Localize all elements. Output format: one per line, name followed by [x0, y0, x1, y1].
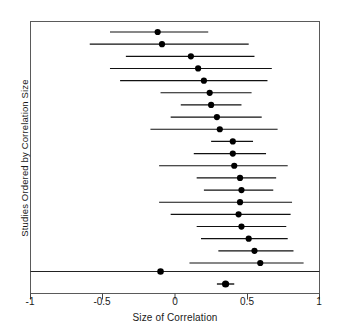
- x-tick-label-1: 1: [299, 296, 338, 307]
- point-estimate-marker: [237, 175, 243, 181]
- point-estimate-marker: [201, 78, 207, 84]
- x-tick-label-zero: 0: [155, 296, 195, 307]
- point-estimate-marker: [207, 90, 213, 96]
- point-estimate-marker: [214, 114, 220, 120]
- point-estimate-marker: [251, 248, 257, 254]
- point-estimate-marker: [231, 163, 237, 169]
- point-estimate-marker: [238, 223, 244, 229]
- point-estimate-marker: [246, 236, 252, 242]
- x-tick-label-neg0p5: -0.5: [82, 296, 122, 307]
- summary-strip-frame: [31, 272, 320, 294]
- point-estimate-marker: [257, 260, 263, 266]
- divider-point-layer: [157, 268, 164, 275]
- forest-plot-canvas: [0, 0, 338, 334]
- point-estimate-marker: [235, 211, 241, 217]
- point-estimate-marker: [217, 126, 223, 132]
- point-estimate-marker: [159, 41, 165, 47]
- point-estimate-marker: [155, 29, 161, 35]
- x-tick-label-neg1: -1: [10, 296, 50, 307]
- point-estimate-marker: [230, 150, 236, 156]
- y-axis-label: Studies Ordered by Correlation Size: [18, 22, 32, 294]
- plot-frame: [31, 22, 320, 272]
- point-estimate-marker: [195, 65, 201, 71]
- forest-plot-figure: Studies Ordered by Correlation Size Size…: [0, 0, 338, 334]
- point-estimate-marker: [238, 187, 244, 193]
- divider-point-marker: [157, 268, 164, 275]
- x-tick-label-0p5: 0.5: [227, 296, 267, 307]
- x-axis-label: Size of Correlation: [30, 312, 320, 323]
- point-estimate-marker: [237, 199, 243, 205]
- point-estimate-marker: [208, 102, 214, 108]
- summary-point-estimate-marker: [222, 280, 229, 287]
- point-estimate-marker: [230, 138, 236, 144]
- point-estimate-marker: [188, 53, 194, 59]
